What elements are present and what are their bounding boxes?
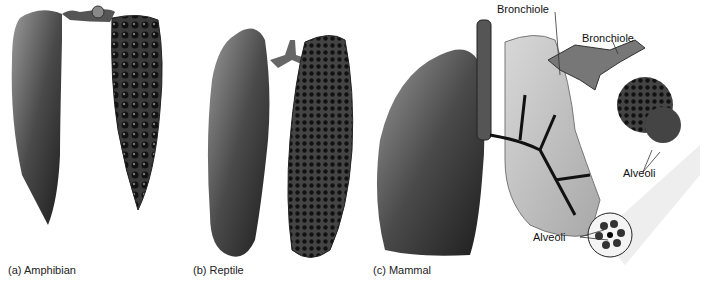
caption-amphibian: (a) Amphibian (8, 264, 76, 276)
caption-mammal: (c) Mammal (373, 264, 431, 276)
amphibian-lungs (12, 6, 162, 225)
reptile-lungs (208, 29, 353, 258)
caption-reptile: (b) Reptile (193, 264, 244, 276)
alveoli-label-1: Alveoli (623, 167, 655, 179)
mammal-lungs (377, 12, 700, 265)
alveoli-label-2: Alveoli (533, 231, 565, 243)
bronchiole-label-2: Bronchiole (582, 32, 634, 44)
bronchiole-label-1: Bronchiole (497, 3, 549, 15)
